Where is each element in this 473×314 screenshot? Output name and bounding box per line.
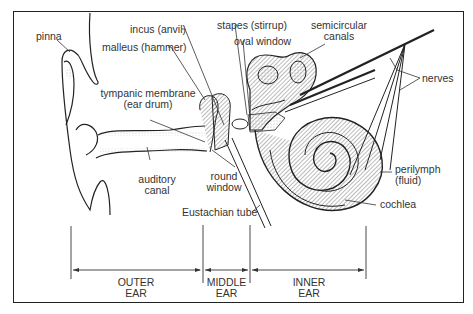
label-oval-window: oval window: [234, 36, 291, 47]
region-middle-ear: MIDDLE EAR: [203, 277, 250, 299]
ear-illustration: [0, 0, 473, 314]
label-pinna: pinna: [36, 31, 62, 42]
cochlea-shape: [255, 118, 382, 211]
label-perilymph: perilymph (fluid): [395, 164, 441, 186]
region-inner-ear: INNER EAR: [285, 277, 333, 299]
label-auditory-canal: auditory canal: [135, 174, 179, 196]
label-incus: incus (anvil): [130, 24, 186, 35]
label-malleus: malleus (hammer): [102, 42, 187, 53]
label-cochlea: cochlea: [380, 199, 416, 210]
pinna-shading: [66, 67, 74, 79]
label-stapes: stapes (stirrup): [217, 20, 287, 31]
region-outer-ear: OUTER EAR: [112, 277, 160, 299]
label-tympanic-membrane: tympanic membrane (ear drum): [99, 88, 197, 110]
region-markers: [71, 225, 366, 283]
auditory-canal: [96, 126, 207, 158]
stapes-shape: [232, 119, 248, 129]
label-nerves: nerves: [422, 73, 454, 84]
label-eustachian-tube: Eustachian tube: [182, 207, 257, 218]
label-semicircular-canals: semicircular canals: [306, 20, 372, 42]
label-round-window: round window: [206, 171, 242, 193]
